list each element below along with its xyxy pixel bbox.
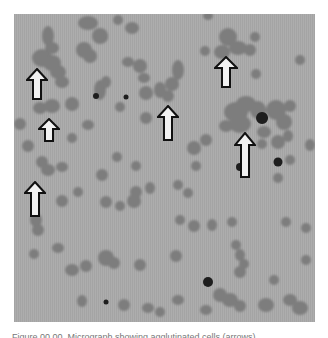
cell-field — [14, 14, 315, 322]
arrow-up-icon — [234, 132, 256, 178]
arrow-up-icon — [38, 118, 60, 142]
micrograph-image — [14, 14, 315, 322]
arrow-up-icon — [214, 56, 238, 88]
arrow-up-icon — [157, 105, 179, 141]
figure-caption: Figure 00.00. Micrograph showing aggluti… — [12, 330, 322, 338]
arrow-up-icon — [24, 181, 46, 217]
arrow-up-icon — [26, 68, 48, 100]
